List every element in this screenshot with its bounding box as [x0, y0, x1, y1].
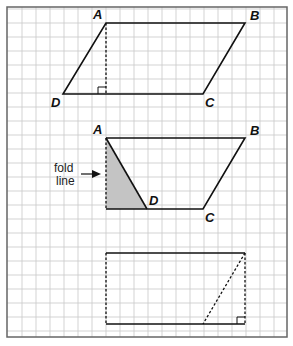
vertex-label-a: A — [92, 122, 102, 137]
figure-folded-trapezoid: fold line A B C D — [54, 122, 259, 225]
vertex-label-c: C — [205, 95, 215, 110]
vertex-label-d: D — [51, 95, 61, 110]
grid-lines — [7, 7, 287, 337]
fold-label-line2: line — [56, 174, 75, 188]
figure-parallelogram: A B C D — [51, 7, 259, 110]
vertex-label-b: B — [250, 123, 259, 138]
vertex-label-c: C — [205, 210, 215, 225]
diagram-frame — [7, 7, 287, 337]
diagram-canvas: A B C D fold line A B C D — [0, 0, 293, 346]
figure-rectangle — [106, 253, 245, 324]
right-angle-marker — [237, 317, 245, 324]
vertex-label-b: B — [250, 8, 259, 23]
vertex-label-a: A — [92, 7, 102, 22]
vertex-label-d: D — [149, 193, 159, 208]
fold-label-line1: fold — [54, 161, 73, 175]
rect-diagonal-dashed — [203, 253, 245, 324]
